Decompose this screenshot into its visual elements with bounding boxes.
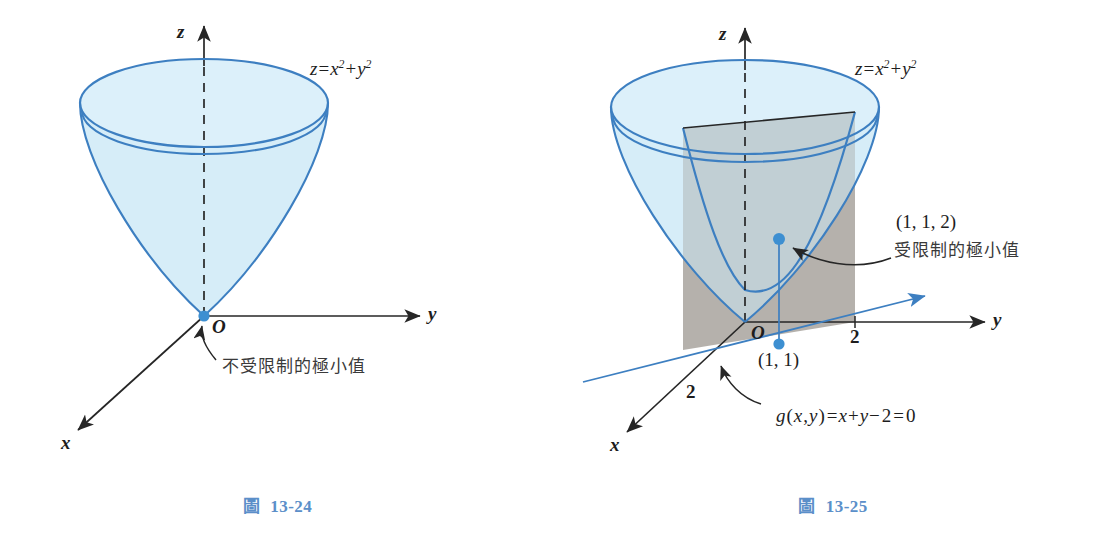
book-icon: 圖 — [798, 497, 816, 516]
figure-number: 13-24 — [270, 497, 312, 516]
equation-y-exponent: 2 — [911, 58, 917, 71]
unconstrained-minimum-point — [198, 310, 209, 321]
y-axis-tick-label-2: 2 — [850, 326, 860, 348]
constrained-minimum-coords: (1, 1, 2) — [896, 211, 956, 233]
constraint-equals-2: = — [892, 405, 905, 426]
constraint-foot-label: (1, 1) — [758, 349, 799, 371]
axis-label-x: x — [61, 432, 71, 454]
axis-label-y: y — [993, 309, 1001, 331]
figure-board: z y x O z=x2+y2 不受限制的極小值 圖13-24 — [0, 0, 1111, 548]
equation-x: x — [875, 58, 883, 79]
origin-label: O — [212, 316, 226, 338]
constraint-plus: + — [847, 405, 860, 426]
equation-y-exponent: 2 — [366, 58, 372, 71]
equation-plus: + — [889, 58, 902, 79]
book-icon: 圖 — [243, 497, 261, 516]
unconstrained-minimum-annotation: 不受限制的極小值 — [222, 352, 366, 377]
constraint-two: 2 — [881, 405, 893, 426]
x-axis-tick-label-2: 2 — [686, 381, 696, 403]
axis-label-z: z — [177, 21, 184, 43]
constraint-paren-close: ) — [817, 405, 825, 426]
constraint-equation: g(x,y)=x+y−2=0 — [776, 405, 917, 427]
constraint-annotation-leader — [721, 366, 761, 404]
constraint-g: g — [776, 405, 786, 426]
constraint-foot-point — [773, 338, 784, 349]
constrained-minimum-annotation: 受限制的極小值 — [894, 236, 1020, 261]
equation-plus: + — [344, 58, 357, 79]
axis-label-z: z — [719, 23, 726, 45]
constraint-paren-open: ( — [786, 405, 794, 426]
surface-equation: z=x2+y2 — [855, 58, 917, 80]
equation-y: y — [902, 58, 910, 79]
equation-equals: = — [317, 58, 330, 79]
axis-label-y: y — [428, 303, 436, 325]
figure-caption-right: 圖13-25 — [555, 492, 1111, 517]
axis-label-x: x — [610, 434, 620, 456]
constraint-rhs-y: y — [860, 405, 868, 426]
constraint-rhs-x: x — [839, 405, 847, 426]
constrained-minimum-point — [773, 233, 785, 245]
constraint-var-x: x — [794, 405, 802, 426]
figure-13-24: z y x O z=x2+y2 不受限制的極小值 圖13-24 — [0, 0, 555, 548]
equation-equals: = — [862, 58, 875, 79]
constraint-comma: , — [802, 405, 809, 426]
constraint-minus: − — [868, 405, 881, 426]
figure-caption-left: 圖13-24 — [0, 492, 555, 517]
equation-x: x — [330, 58, 338, 79]
constraint-zero: 0 — [905, 405, 917, 426]
x-axis — [78, 316, 204, 430]
figure-13-25: z y x O z=x2+y2 (1, 1, 2) 受限制的極小值 (1, 1)… — [555, 0, 1111, 548]
figure-13-25-graphic — [555, 0, 1111, 470]
constraint-equals-1: = — [826, 405, 839, 426]
figure-13-24-graphic — [0, 0, 555, 470]
figure-number: 13-25 — [826, 497, 868, 516]
surface-equation: z=x2+y2 — [310, 58, 372, 80]
origin-label: O — [751, 322, 765, 344]
equation-y: y — [357, 58, 365, 79]
